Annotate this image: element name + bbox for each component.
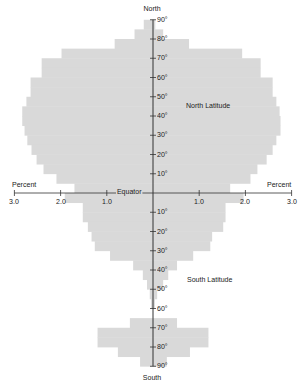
south-label: South — [143, 374, 161, 382]
percent-left-label: Percent — [12, 181, 36, 189]
latitude-band-bar — [44, 164, 258, 174]
latitude-band-bar — [88, 222, 223, 232]
south-latitude-tick-label: 30° — [157, 247, 168, 255]
north-latitude-tick-label: 90° — [157, 16, 168, 24]
latitude-band-bar — [83, 212, 226, 222]
north-latitude-tick-label: 40° — [157, 112, 168, 120]
latitude-band-bar — [42, 68, 261, 78]
latitude-band-bar — [115, 39, 189, 49]
north-latitude-tick-label: 70° — [157, 54, 168, 62]
south-latitude-tick-label: 70° — [157, 324, 168, 332]
north-latitude-tick-label: 80° — [157, 35, 168, 43]
latitude-percent-chart — [0, 0, 303, 387]
north-latitude-tick-label: 10° — [157, 170, 168, 178]
x-tick-label: 2.0 — [240, 198, 250, 206]
latitude-band-bar — [118, 347, 190, 357]
latitude-band-bar — [144, 20, 156, 30]
north-latitude-tick-label: 20° — [157, 151, 168, 159]
latitude-band-bar — [27, 135, 276, 145]
latitude-band-bar — [26, 97, 276, 107]
north-latitude-label: North Latitude — [186, 102, 230, 110]
latitude-band-bar — [133, 260, 177, 270]
x-tick-label: 1.0 — [102, 198, 112, 206]
latitude-band-bar — [31, 145, 272, 155]
latitude-band-bar — [37, 155, 267, 165]
latitude-band-bar — [74, 183, 230, 193]
x-tick-label: 3.0 — [9, 198, 19, 206]
x-tick-label: 2.0 — [56, 198, 66, 206]
latitude-band-bar — [92, 232, 213, 242]
south-latitude-tick-label: 40° — [157, 266, 168, 274]
north-latitude-tick-label: 50° — [157, 93, 168, 101]
latitude-band-bar — [42, 58, 261, 68]
percent-right-label: Percent — [267, 181, 291, 189]
latitude-band-bar — [22, 116, 280, 126]
latitude-band-bar — [31, 78, 273, 88]
south-latitude-tick-label: 20° — [157, 228, 168, 236]
x-tick-label: 1.0 — [194, 198, 204, 206]
latitude-band-bar — [62, 49, 243, 59]
north-label: North — [143, 5, 160, 13]
south-latitude-label: South Latitude — [187, 276, 232, 284]
south-latitude-tick-label: 90° — [157, 362, 168, 370]
north-latitude-tick-label: 60° — [157, 74, 168, 82]
latitude-band-bar — [110, 251, 193, 261]
latitude-band-bar — [65, 193, 244, 203]
north-latitude-tick-label: 30° — [157, 131, 168, 139]
latitude-band-bar — [22, 106, 279, 116]
south-latitude-tick-label: 80° — [157, 343, 168, 351]
south-latitude-tick-label: 50° — [157, 285, 168, 293]
south-latitude-tick-label: 60° — [157, 305, 168, 313]
equator-label: Equator — [116, 188, 142, 196]
south-latitude-tick-label: 10° — [157, 208, 168, 216]
x-tick-label: 3.0 — [287, 198, 297, 206]
latitude-band-bar — [31, 87, 273, 97]
